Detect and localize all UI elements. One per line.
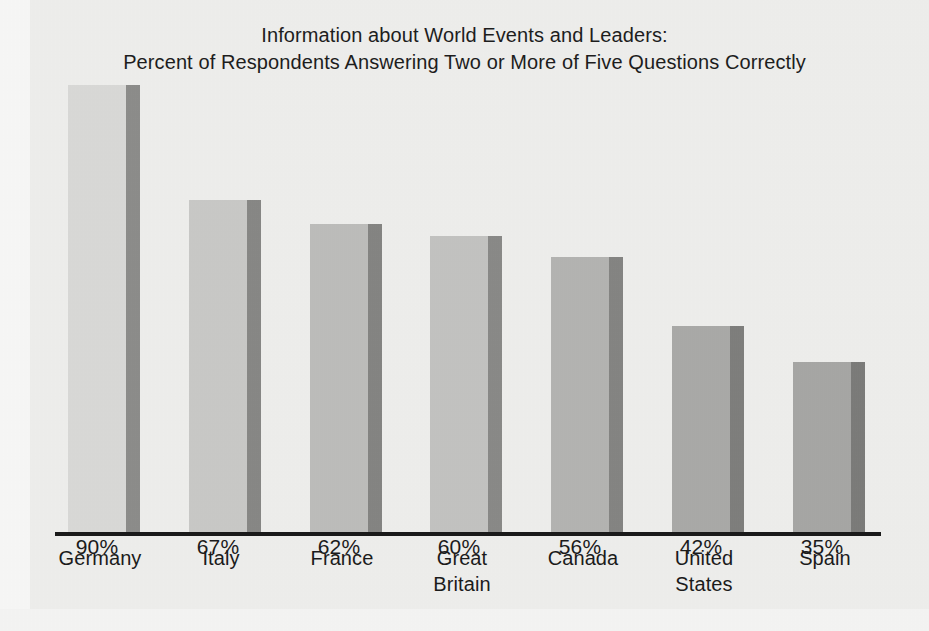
bar-side-shadow: [126, 85, 140, 534]
bar-side-shadow: [609, 257, 623, 534]
x-axis-tick-label-line-1: France: [311, 547, 374, 569]
bar-body: [551, 257, 609, 534]
bar-canada: [551, 257, 623, 534]
bar-germany: [68, 85, 140, 534]
bar-body: [68, 85, 126, 534]
x-axis-tick-label-line-2: Britain: [387, 571, 537, 597]
bar-side-shadow: [488, 236, 502, 534]
bar-france: [310, 224, 382, 534]
x-axis-tick-label-line-1: Germany: [59, 547, 142, 569]
bar-body: [430, 236, 488, 534]
bar-spain: [793, 362, 865, 534]
bar-italy: [189, 200, 261, 534]
bar-chart-plot-area: 90%Germany67%Italy62%France60%GreatBrita…: [0, 0, 929, 631]
bar-body: [189, 200, 247, 534]
x-axis-tick-label-line-1: Canada: [548, 547, 619, 569]
bar-body: [793, 362, 851, 534]
x-axis-tick-label-line-1: Italy: [202, 547, 239, 569]
bar-side-shadow: [247, 200, 261, 534]
x-axis-tick-label: Spain: [750, 545, 900, 571]
x-axis-baseline: [55, 532, 881, 536]
bar-side-shadow: [851, 362, 865, 534]
x-axis-tick-label-line-1: Spain: [799, 547, 851, 569]
bar-side-shadow: [730, 326, 744, 534]
bar-body: [672, 326, 730, 534]
bar-great-britain: [430, 236, 502, 534]
x-axis-tick-label-line-1: United: [675, 547, 733, 569]
bar-body: [310, 224, 368, 534]
scanned-page: Information about World Events and Leade…: [0, 0, 929, 631]
bar-united-states: [672, 326, 744, 534]
bar-side-shadow: [368, 224, 382, 534]
x-axis-tick-label-line-1: Great: [437, 547, 488, 569]
x-axis-tick-label-line-2: States: [629, 571, 779, 597]
